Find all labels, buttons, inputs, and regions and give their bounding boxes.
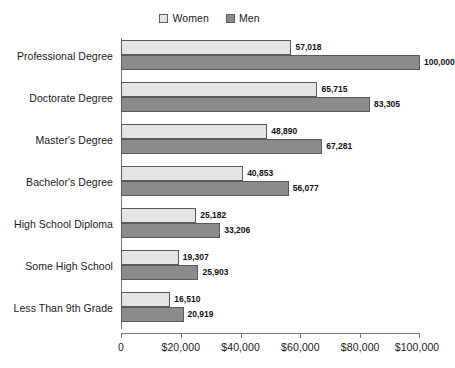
bar-group: 19,30725,903 (121, 246, 419, 288)
bar-line-men: 20,919 (121, 307, 214, 322)
category-label: Some High School (0, 246, 113, 288)
plot-area: Professional Degree57,018100,000Doctorat… (0, 36, 419, 331)
bar-value-label: 25,903 (202, 268, 228, 277)
x-tick-label: $20,000 (161, 342, 200, 353)
x-tick-mark (241, 333, 242, 338)
legend-entry-men: Men (226, 13, 260, 24)
category-label: Master's Degree (0, 120, 113, 162)
bar-group: 57,018100,000 (121, 36, 419, 78)
bar-women (121, 82, 317, 97)
bar-value-label: 33,206 (224, 226, 250, 235)
bar-women (121, 166, 243, 181)
bar-row: Bachelor's Degree40,85356,077 (0, 162, 419, 204)
legend-label-women: Women (172, 13, 209, 24)
bar-men (121, 307, 184, 322)
chart-legend: Women Men (0, 13, 419, 24)
bar-men (121, 97, 370, 112)
bar-value-label: 57,018 (295, 43, 321, 52)
bar-row: Master's Degree48,89067,281 (0, 120, 419, 162)
bar-line-men: 25,903 (121, 265, 228, 280)
bar-value-label: 83,305 (374, 100, 400, 109)
bar-row: Doctorate Degree65,71583,305 (0, 78, 419, 120)
bar-value-label: 65,715 (321, 85, 347, 94)
x-tick-mark (300, 333, 301, 338)
bar-women (121, 250, 179, 265)
legend-label-men: Men (239, 13, 260, 24)
bar-value-label: 19,307 (183, 253, 209, 262)
category-label: Less Than 9th Grade (0, 288, 113, 330)
x-axis: 0$20,000$40,000$60,000$80,000$100,000 (0, 331, 419, 368)
bar-value-label: 67,281 (326, 142, 352, 151)
x-tick-label: $60,000 (281, 342, 320, 353)
bar-line-women: 48,890 (121, 124, 297, 139)
x-tick-mark (121, 333, 122, 338)
x-tick-label: $100,000 (395, 342, 440, 353)
bar-line-men: 83,305 (121, 97, 400, 112)
bar-value-label: 56,077 (293, 184, 319, 193)
x-axis-line (121, 333, 420, 334)
bar-group: 16,51020,919 (121, 288, 419, 330)
x-tick-label: $40,000 (221, 342, 260, 353)
legend-swatch-men-icon (226, 14, 235, 23)
x-tick-mark (360, 333, 361, 338)
bar-women (121, 124, 267, 139)
bar-men (121, 223, 220, 238)
bar-women (121, 292, 170, 307)
category-label: Doctorate Degree (0, 78, 113, 120)
bar-group: 48,89067,281 (121, 120, 419, 162)
bar-row: Some High School19,30725,903 (0, 246, 419, 288)
category-label: Bachelor's Degree (0, 162, 113, 204)
x-tick-mark (419, 333, 420, 338)
bar-men (121, 265, 198, 280)
x-tick-mark (181, 333, 182, 338)
bar-men (121, 55, 420, 70)
bar-line-men: 67,281 (121, 139, 352, 154)
bar-women (121, 40, 291, 55)
bar-line-men: 56,077 (121, 181, 319, 196)
legend-entry-women: Women (159, 13, 209, 24)
bar-line-women: 40,853 (121, 166, 273, 181)
bar-group: 25,18233,206 (121, 204, 419, 246)
category-label: Professional Degree (0, 36, 113, 78)
bar-value-label: 20,919 (188, 310, 214, 319)
bar-value-label: 100,000 (424, 58, 455, 67)
bar-line-women: 57,018 (121, 40, 321, 55)
bar-line-men: 33,206 (121, 223, 250, 238)
bar-women (121, 208, 196, 223)
bar-group: 65,71583,305 (121, 78, 419, 120)
legend-swatch-women-icon (159, 14, 168, 23)
bar-row: Less Than 9th Grade16,51020,919 (0, 288, 419, 330)
bar-group: 40,85356,077 (121, 162, 419, 204)
bar-value-label: 16,510 (174, 295, 200, 304)
bar-men (121, 181, 289, 196)
x-tick-label: $80,000 (341, 342, 380, 353)
bar-value-label: 40,853 (247, 169, 273, 178)
bar-line-women: 25,182 (121, 208, 226, 223)
bar-row: High School Diploma25,18233,206 (0, 204, 419, 246)
bar-line-women: 16,510 (121, 292, 200, 307)
bar-line-women: 19,307 (121, 250, 209, 265)
bar-row: Professional Degree57,018100,000 (0, 36, 419, 78)
category-label: High School Diploma (0, 204, 113, 246)
bar-rows: Professional Degree57,018100,000Doctorat… (0, 36, 419, 331)
bar-value-label: 25,182 (200, 211, 226, 220)
x-tick-label: 0 (118, 342, 124, 353)
bar-line-men: 100,000 (121, 55, 455, 70)
bar-value-label: 48,890 (271, 127, 297, 136)
bar-line-women: 65,715 (121, 82, 347, 97)
bar-men (121, 139, 322, 154)
